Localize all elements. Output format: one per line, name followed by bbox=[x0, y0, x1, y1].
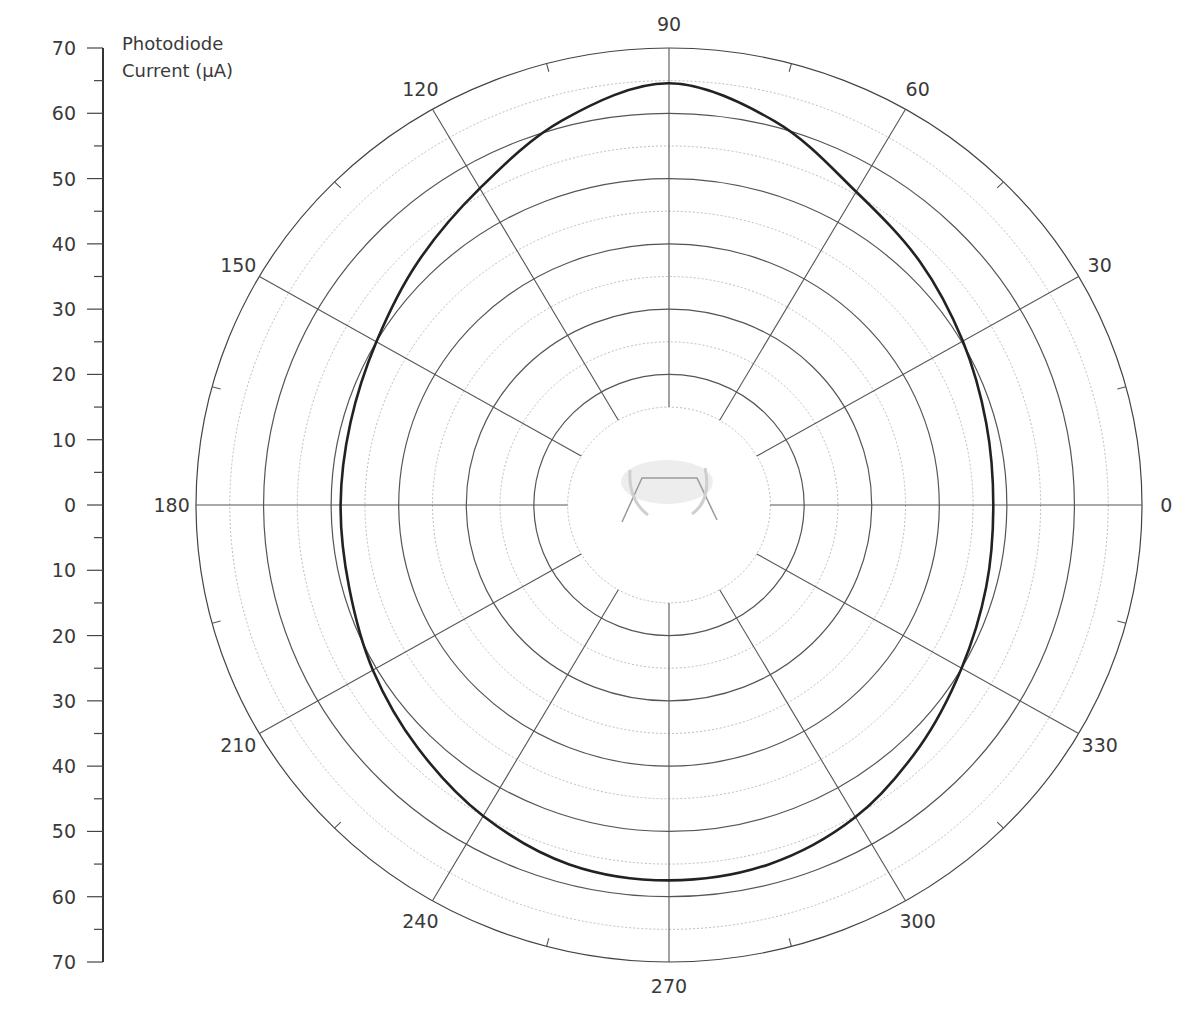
radial-tick-label: 30 bbox=[52, 690, 76, 712]
angle-label: 270 bbox=[651, 975, 687, 997]
radial-tick-label: 40 bbox=[52, 233, 76, 255]
radial-axis: 70605040302010010203040506070 bbox=[52, 37, 103, 973]
spoke-line bbox=[757, 277, 1079, 457]
grid-ring-dotted bbox=[568, 407, 771, 603]
radial-tick-label: 40 bbox=[52, 755, 76, 777]
radial-tick-label: 50 bbox=[52, 820, 76, 842]
spoke-line bbox=[433, 109, 619, 420]
radial-tick-label: 70 bbox=[52, 37, 76, 59]
radial-tick-label: 10 bbox=[52, 429, 76, 451]
grid-ring bbox=[534, 374, 804, 635]
radial-tick-label: 20 bbox=[52, 363, 76, 385]
radial-tick-label: 10 bbox=[52, 559, 76, 581]
angle-label: 240 bbox=[402, 910, 438, 932]
angular-spokes bbox=[196, 48, 1142, 962]
polar-chart: 0306090120150180210240270300330 70605040… bbox=[0, 0, 1193, 1022]
angle-label: 90 bbox=[657, 13, 681, 35]
radial-tick-label: 50 bbox=[52, 168, 76, 190]
angle-label: 0 bbox=[1160, 494, 1172, 516]
angle-label: 180 bbox=[154, 494, 190, 516]
angle-label: 300 bbox=[900, 910, 936, 932]
radial-tick-label: 60 bbox=[52, 886, 76, 908]
radial-tick-label: 20 bbox=[52, 625, 76, 647]
angle-label: 120 bbox=[402, 78, 438, 100]
radial-tick-label: 30 bbox=[52, 298, 76, 320]
spoke-line bbox=[720, 109, 906, 420]
radial-tick-label: 60 bbox=[52, 102, 76, 124]
angle-label: 150 bbox=[220, 254, 256, 276]
spoke-line bbox=[433, 590, 619, 901]
radial-axis-title: Photodiode Current (µA) bbox=[122, 30, 272, 84]
radial-tick-label: 70 bbox=[52, 951, 76, 973]
angle-label: 210 bbox=[220, 734, 256, 756]
angle-label: 30 bbox=[1088, 254, 1112, 276]
radial-tick-label: 0 bbox=[64, 494, 76, 516]
angle-label: 60 bbox=[906, 78, 930, 100]
spoke-line bbox=[757, 554, 1079, 734]
spoke-line bbox=[259, 554, 581, 734]
spoke-line bbox=[259, 277, 581, 457]
sensor-device-icon bbox=[621, 460, 717, 522]
spoke-line bbox=[720, 590, 906, 901]
angle-label: 330 bbox=[1082, 734, 1118, 756]
